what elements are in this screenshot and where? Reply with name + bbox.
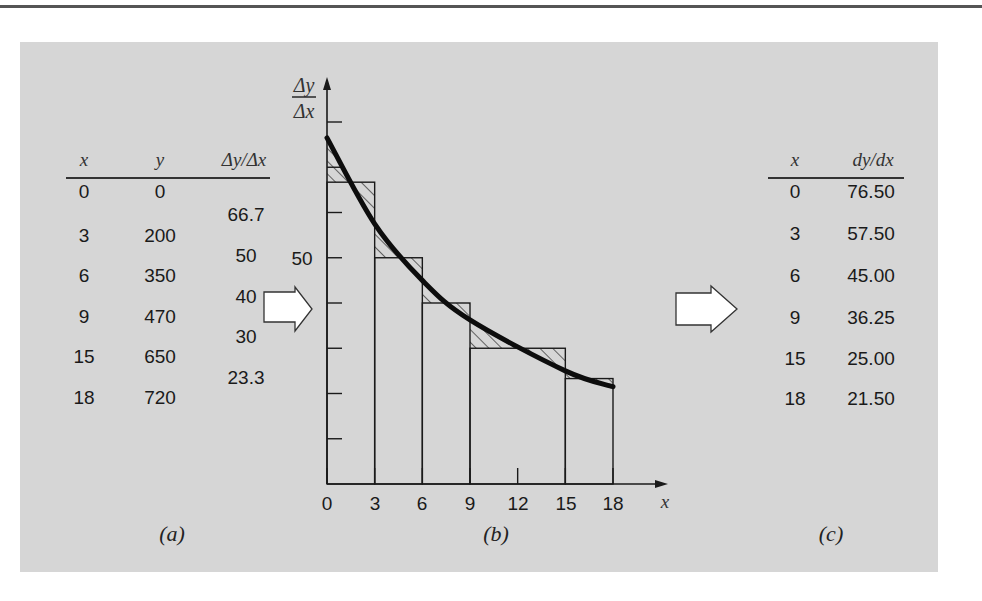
- cell-x: 15: [784, 348, 805, 370]
- header-x: x: [791, 149, 799, 171]
- caption-c-text: (c): [819, 521, 843, 546]
- x-tick-label: 12: [507, 493, 528, 515]
- bar: [422, 303, 470, 484]
- caption-b: (b): [483, 521, 509, 547]
- x-tick-label: 6: [417, 493, 428, 515]
- y-label-denominator: Δx: [294, 100, 315, 123]
- y-tick-label-50: 50: [291, 248, 312, 270]
- x-tick-label: 15: [555, 493, 576, 515]
- cell-x: 0: [790, 181, 801, 203]
- cell-x: 18: [784, 388, 805, 410]
- caption-c: (c): [819, 521, 843, 547]
- cell-deriv: 25.00: [847, 348, 895, 370]
- y-axis-arrow-icon: [323, 77, 331, 90]
- x-axis-arrow-icon: [655, 480, 668, 488]
- x-tick-label: 0: [322, 493, 333, 515]
- bar: [470, 348, 565, 484]
- cell-deriv: 45.00: [847, 265, 895, 287]
- bars: [327, 182, 613, 484]
- bar: [565, 379, 613, 484]
- caption-b-text: (b): [483, 521, 509, 546]
- x-tick-label: 3: [370, 493, 381, 515]
- cell-x: 3: [790, 223, 801, 245]
- header-deriv: dy/dx: [852, 149, 893, 171]
- chart-b: [0, 0, 982, 601]
- cell-x: 9: [790, 307, 801, 329]
- cell-deriv: 57.50: [847, 223, 895, 245]
- arrow-right-icon: [264, 287, 312, 331]
- cell-deriv: 36.25: [847, 307, 895, 329]
- x-axis-label: x: [661, 491, 669, 513]
- arrow-right-icon: [676, 286, 737, 332]
- x-axis-ticks: [327, 468, 613, 484]
- x-tick-label: 18: [602, 493, 623, 515]
- cell-deriv: 76.50: [847, 181, 895, 203]
- cell-deriv: 21.50: [847, 388, 895, 410]
- bar: [375, 258, 423, 484]
- header-rule: [768, 177, 904, 179]
- y-label-numerator: Δy: [294, 74, 315, 97]
- x-tick-label: 9: [465, 493, 476, 515]
- cell-x: 6: [790, 265, 801, 287]
